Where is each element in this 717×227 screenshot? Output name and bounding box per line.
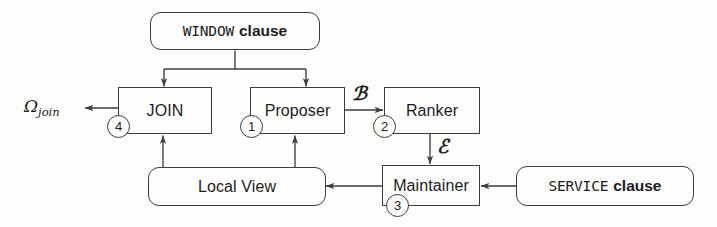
architecture-diagram: WINDOWclause JOIN 4 Proposer 1 Ranker 2 … xyxy=(0,0,717,227)
node-proposer[interactable]: Proposer xyxy=(250,87,345,134)
step-badge-3: 3 xyxy=(386,194,409,217)
edge-label-ranker-maintainer: ℰ xyxy=(437,137,449,156)
step-badge-1: 1 xyxy=(240,115,263,138)
service-clause-label: SERVICEclause xyxy=(549,178,662,194)
service-keyword: SERVICE xyxy=(549,178,609,194)
step-badge-2: 2 xyxy=(373,115,396,138)
maintainer-label: Maintainer xyxy=(393,178,469,194)
local-view-label: Local View xyxy=(198,179,276,195)
proposer-label: Proposer xyxy=(265,103,331,119)
service-clause-word: clause xyxy=(613,177,661,194)
omega-symbol: Ω xyxy=(24,96,38,116)
window-clause-label: WINDOWclause xyxy=(183,23,287,39)
join-label: JOIN xyxy=(147,103,184,119)
window-clause-word: clause xyxy=(239,22,287,39)
output-label-omega-join: Ωjoin xyxy=(24,98,60,119)
node-local-view[interactable]: Local View xyxy=(148,167,326,206)
node-join[interactable]: JOIN xyxy=(118,87,212,134)
node-ranker[interactable]: Ranker xyxy=(384,87,480,134)
node-window-clause[interactable]: WINDOWclause xyxy=(150,12,320,50)
node-service-clause[interactable]: SERVICEclause xyxy=(516,166,694,206)
edge-label-proposer-ranker: ℬ xyxy=(352,84,367,103)
window-keyword: WINDOW xyxy=(183,23,234,39)
ranker-label: Ranker xyxy=(406,103,458,119)
step-badge-4: 4 xyxy=(107,115,130,138)
omega-subscript: join xyxy=(38,105,60,119)
